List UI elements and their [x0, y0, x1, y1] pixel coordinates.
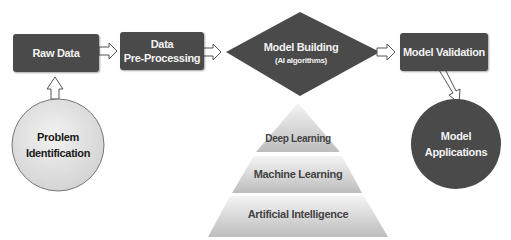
- pyramid-label-deep-learning: Deep Learning: [248, 133, 348, 144]
- pre-processing-node: Data Pre-Processing: [120, 32, 204, 70]
- model-applications-text: Model Applications: [411, 99, 501, 189]
- pyramid-label-machine-learning: Machine Learning: [237, 168, 359, 180]
- applications-label-line2: Applications: [425, 144, 487, 160]
- pre-processing-label-line1: Data: [151, 37, 174, 51]
- problem-label-line1: Problem: [37, 129, 79, 145]
- pyramid-tier-top: [256, 103, 340, 152]
- pyramid-label-artificial-intelligence: Artificial Intelligence: [222, 208, 374, 220]
- model-validation-label: Model Validation: [403, 45, 485, 59]
- arrow-preprocess-to-building: [203, 44, 221, 60]
- arrow-validation-to-applications: [439, 67, 460, 103]
- applications-label-line1: Model: [441, 128, 471, 144]
- raw-data-label: Raw Data: [32, 46, 79, 60]
- pre-processing-label-line2: Pre-Processing: [124, 51, 201, 65]
- arrow-problem-to-raw: [47, 77, 63, 99]
- model-building-text: Model Building (AI algorithms): [246, 40, 356, 67]
- problem-label-line2: Identification: [26, 145, 90, 161]
- arrow-building-to-validation: [377, 44, 395, 60]
- model-building-label: Model Building: [246, 40, 356, 54]
- model-validation-node: Model Validation: [400, 33, 488, 71]
- arrow-raw-to-preprocess: [99, 43, 117, 59]
- raw-data-node: Raw Data: [13, 34, 99, 72]
- problem-identification-text: Problem Identification: [12, 99, 104, 191]
- model-building-sublabel: (AI algorithms): [246, 54, 356, 67]
